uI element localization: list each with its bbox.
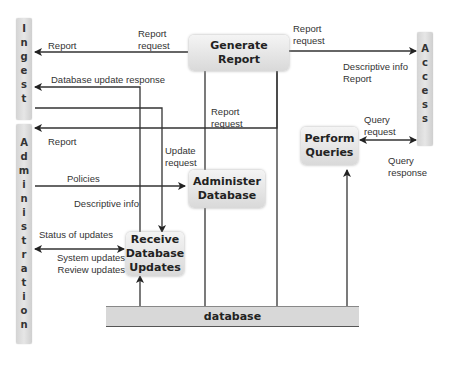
perform-queries-process: Perform Queries — [301, 127, 358, 165]
entity-letter: s — [21, 78, 27, 92]
process-label: Generate Report — [189, 39, 289, 67]
flow-label-descriptive-info-report: Descriptive info Report — [343, 61, 408, 85]
entity-letter: n — [20, 318, 27, 332]
generate-report-process: Generate Report — [189, 35, 289, 71]
flow-label-access-report-request: Report request — [293, 23, 325, 47]
entity-letter: I — [22, 22, 26, 36]
database-store: database — [106, 306, 359, 327]
flow-label-descriptive-info: Descriptive info — [74, 198, 139, 210]
entity-letter: n — [20, 36, 27, 50]
entity-letter: m — [19, 164, 29, 178]
entity-letter: g — [20, 50, 27, 64]
flow-label-query-request: Query request — [364, 114, 396, 138]
process-label: Perform — [304, 132, 354, 146]
flow-label-ingest-report: Report — [48, 40, 77, 52]
entity-letter: A — [421, 42, 429, 56]
flow-label-system-review-updates: System updates Review updates — [57, 252, 125, 276]
entity-letter: s — [422, 112, 428, 126]
entity-letter: s — [422, 98, 428, 112]
process-label: Administer — [193, 175, 261, 189]
process-label: Queries — [306, 146, 354, 160]
entity-letter: t — [22, 92, 27, 106]
entity-letter: e — [21, 64, 28, 78]
database-label: database — [204, 310, 261, 323]
flow-label-admin-report-request: Report request — [211, 106, 243, 130]
entity-letter: n — [20, 192, 27, 206]
entity-letter: i — [22, 178, 25, 192]
entity-letter: e — [422, 84, 429, 98]
flow-label-admin-report: Report — [48, 136, 77, 148]
process-label: Database — [198, 189, 257, 203]
entity-letter: r — [22, 248, 27, 262]
entity-letter: t — [22, 234, 27, 248]
entity-letter: s — [21, 220, 27, 234]
entity-letter: c — [422, 56, 428, 70]
flow-label-update-request: Update request — [165, 145, 197, 169]
process-label: Updates — [129, 261, 180, 275]
entity-letter: a — [21, 262, 28, 276]
entity-letter: t — [22, 276, 27, 290]
receive-database-updates-process: Receive Database Updates — [126, 232, 184, 276]
flow-label-ingest-report-request: Report request — [138, 28, 170, 52]
process-label: Database — [126, 247, 185, 261]
entity-letter: c — [422, 70, 428, 84]
access-entity: A c c e s s — [417, 32, 433, 146]
ingest-entity: I n g e s t — [16, 18, 32, 120]
entity-letter: d — [20, 150, 27, 164]
flow-label-status-of-updates: Status of updates — [39, 229, 113, 241]
flow-label-db-update-response: Database update response — [51, 74, 165, 86]
process-label: Receive — [131, 233, 179, 247]
flow-label-query-response: Query response — [388, 155, 427, 179]
flow-label-policies: Policies — [67, 173, 100, 185]
functional-diagram: I n g e s t A d m i n i s t r a t i o n … — [0, 0, 450, 365]
entity-letter: i — [22, 290, 25, 304]
administer-database-process: Administer Database — [189, 170, 265, 208]
entity-letter: i — [22, 206, 25, 220]
entity-letter: o — [21, 304, 28, 318]
entity-letter: A — [20, 136, 28, 150]
administration-entity: A d m i n i s t r a t i o n — [16, 124, 32, 344]
